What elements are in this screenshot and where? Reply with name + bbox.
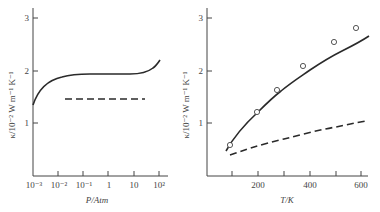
left-x-axis-label: P/Atm	[85, 195, 109, 205]
left-x-tick-label: 10	[130, 180, 140, 190]
right-solid-curve	[226, 36, 369, 151]
figure: 3 2 1 10⁻³ 10⁻² 10⁻¹ 1 10 10² P/Atm κ/10…	[0, 0, 380, 212]
left-x-tick-label: 10⁻¹	[76, 180, 93, 190]
left-x-tick-label: 10⁻²	[51, 180, 68, 190]
right-y-axis-label: κ/10⁻² W m⁻¹ K⁻¹	[181, 71, 191, 138]
right-dashed-curve	[230, 121, 366, 155]
left-solid-curve	[33, 60, 160, 105]
right-x-axis-label: T/K	[280, 195, 295, 205]
right-y-tick-label: 3	[199, 13, 204, 23]
right-x-tick-label: 600	[354, 180, 368, 190]
right-chart: 3 2 1 200 400 600 T/K κ/10⁻² W m⁻¹ K⁻¹	[181, 8, 369, 205]
data-point-marker	[254, 109, 259, 114]
left-y-axis-label: κ/10⁻² W m⁻¹ K⁻¹	[7, 71, 17, 138]
left-y-tick-label: 3	[25, 13, 30, 23]
right-y-tick-label: 2	[199, 66, 204, 76]
left-y-tick-label: 2	[25, 66, 30, 76]
left-x-tick-label: 10⁻³	[26, 180, 43, 190]
right-x-tick-label: 400	[303, 180, 317, 190]
left-x-tick-label: 10²	[153, 180, 165, 190]
data-point-marker	[300, 63, 305, 68]
left-x-tick-label: 1	[107, 180, 112, 190]
data-point-marker	[331, 39, 336, 44]
data-point-marker	[227, 142, 232, 147]
data-point-marker	[274, 87, 279, 92]
left-chart: 3 2 1 10⁻³ 10⁻² 10⁻¹ 1 10 10² P/Atm κ/10…	[7, 8, 168, 205]
data-point-marker	[353, 25, 358, 30]
right-y-tick-label: 1	[199, 118, 204, 128]
left-y-tick-label: 1	[25, 118, 30, 128]
right-x-tick-label: 200	[251, 180, 265, 190]
